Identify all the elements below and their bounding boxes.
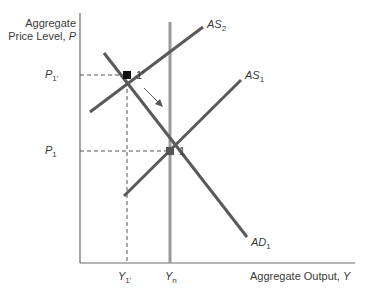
- point-1: [166, 147, 174, 155]
- p1prime-sub: 1': [52, 74, 58, 83]
- as1-sub: 1: [260, 75, 264, 84]
- p1prime-tick-label: P1': [45, 68, 58, 82]
- yn-tick-label: Yn: [165, 270, 177, 284]
- yn-sub: n: [172, 276, 176, 285]
- y1prime-tick-label: Y1': [118, 270, 131, 284]
- adjustment-arrow: [144, 88, 159, 103]
- y-axis-label-line2: Price Level,: [8, 30, 69, 42]
- as1-label: AS1: [245, 69, 264, 83]
- ad1-sub: 1: [266, 242, 270, 251]
- x-axis-var: Y: [343, 270, 350, 282]
- as2-label: AS2: [207, 18, 226, 32]
- as2-sub: 2: [222, 24, 226, 33]
- as2-name: AS: [207, 18, 222, 30]
- p1-sub: 1: [52, 150, 56, 159]
- as1-name: AS: [245, 69, 260, 81]
- x-axis-label-text: Aggregate Output,: [250, 270, 343, 282]
- point-1-label: 1: [179, 145, 185, 158]
- ad1-name: AD: [251, 236, 266, 248]
- y-axis-var: P: [69, 30, 76, 42]
- p1-tick-label: P1: [45, 144, 57, 158]
- x-axis-label: Aggregate Output, Y: [250, 270, 350, 283]
- y-axis-label-line1: Aggregate: [8, 17, 76, 30]
- as1-curve: [124, 80, 241, 196]
- point-1-prime-label: 1': [136, 69, 144, 82]
- as2-curve: [90, 27, 203, 112]
- y1prime-sub: 1': [125, 276, 131, 285]
- ad1-label: AD1: [251, 236, 271, 250]
- ad1-curve: [104, 53, 247, 237]
- y-axis-label: Aggregate Price Level, P: [8, 17, 76, 43]
- point-1-prime: [123, 71, 131, 79]
